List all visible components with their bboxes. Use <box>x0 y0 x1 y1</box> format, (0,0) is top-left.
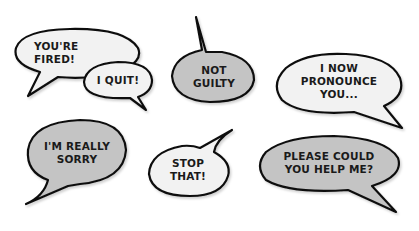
bubble-text-im-really-sorry: I'M REALLY SORRY <box>34 140 120 166</box>
bubble-text-stop-that: STOP THAT! <box>160 157 216 183</box>
speech-bubbles-illustration <box>0 0 419 231</box>
bubble-text-i-quit: I QUIT! <box>90 74 146 87</box>
bubble-text-i-now-pronounce-you: I NOW PRONOUNCE YOU... <box>292 62 386 101</box>
bubble-text-not-guilty: NOT GUILTY <box>186 64 242 90</box>
bubble-text-youre-fired: YOU'RE FIRED! <box>34 40 90 66</box>
bubble-text-please-could-you-help-me: PLEASE COULD YOU HELP ME? <box>270 150 388 176</box>
